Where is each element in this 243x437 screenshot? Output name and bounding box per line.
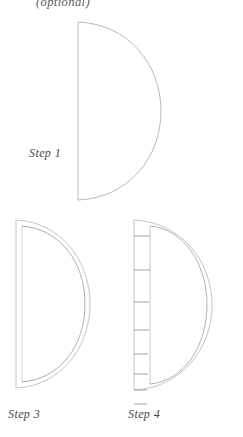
diagram-page: (optional) Step 1 Step 3 (0, 0, 243, 437)
step-4-drawing (122, 212, 240, 402)
step-3-drawing (2, 212, 117, 402)
step-1-curved-edge (78, 22, 161, 200)
step-1-drawing (66, 12, 176, 217)
step-1-caption: Step 1 (29, 146, 61, 161)
step-4-notch-ticks (134, 236, 150, 404)
figure-step-1 (66, 12, 176, 217)
step-3-inner-curve (22, 226, 85, 382)
step-3-outer-curve (16, 220, 90, 388)
step-4-inner-curve (150, 226, 207, 384)
step-3-caption: Step 3 (8, 407, 40, 422)
figure-step-4 (122, 212, 240, 402)
step-4-caption: Step 4 (128, 407, 160, 422)
optional-note: (optional) (36, 0, 90, 10)
step-4-outer-curve (134, 220, 212, 390)
figure-step-3 (2, 212, 117, 402)
